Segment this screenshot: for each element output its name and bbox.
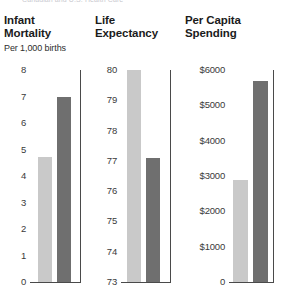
y-axis-tick-label: 3 — [0, 198, 26, 208]
chart-title-line2: Expectancy — [95, 27, 181, 40]
y-axis-tick-label: $1000 — [181, 242, 225, 252]
y-axis-tick-label: 1 — [0, 251, 26, 261]
y-axis-tick-label: 6 — [0, 118, 26, 128]
x-axis-baseline — [121, 282, 171, 283]
plot-inner: $6000$5000$4000$3000$2000$10000 — [181, 62, 281, 287]
y-axis-tick-label: 75 — [91, 216, 117, 226]
y-axis-tick-label: 4 — [0, 171, 26, 181]
bar-united-states — [57, 97, 71, 283]
chart-title-line2: Spending — [185, 27, 281, 40]
x-axis-baseline — [229, 282, 274, 283]
y-axis-tick-label: 78 — [91, 126, 117, 136]
y-axis-tick-label: $3000 — [181, 171, 225, 181]
chart-title-line2: Mortality — [4, 27, 91, 40]
chart-title-line1: Per Capita — [185, 14, 281, 27]
y-axis-tick-label: $6000 — [181, 65, 225, 75]
y-axis-tick-label: 79 — [91, 95, 117, 105]
y-axis-line — [170, 70, 171, 282]
y-axis-tick-label: 8 — [0, 65, 26, 75]
y-axis-line — [273, 70, 274, 282]
plot-area: 876543210 — [0, 62, 91, 287]
chart-title-line1: Infant — [4, 14, 91, 27]
bar-canada — [233, 180, 248, 282]
bar-canada — [38, 157, 52, 282]
y-axis-tick-label: $4000 — [181, 136, 225, 146]
bar-canada — [127, 70, 141, 282]
y-axis-line — [80, 70, 81, 282]
chart-title-line1: Life — [95, 14, 181, 27]
y-axis-tick-label: 0 — [181, 277, 225, 287]
chart-subtitle: Per 1,000 births — [4, 43, 91, 54]
plot-area: 8079787776757473 — [91, 62, 181, 287]
y-axis-tick-label: 74 — [91, 247, 117, 257]
plot-inner: 876543210 — [0, 62, 91, 287]
clipped-caption: Canadian and U.S. Health Care — [22, 0, 242, 4]
y-axis-tick-label: $5000 — [181, 100, 225, 110]
y-axis-tick-label: 0 — [0, 277, 26, 287]
y-axis-tick-label: 76 — [91, 186, 117, 196]
chart-panel-1: LifeExpectancy8079787776757473 — [91, 14, 181, 287]
y-axis-tick-label: $2000 — [181, 206, 225, 216]
y-axis-tick-label: 2 — [0, 224, 26, 234]
bar-united-states — [146, 158, 160, 282]
y-axis-tick-label: 80 — [91, 65, 117, 75]
chart-panel-group: InfantMortalityPer 1,000 births876543210… — [0, 14, 281, 287]
y-axis-tick-label: 77 — [91, 156, 117, 166]
bar-united-states — [253, 81, 268, 282]
chart-panel-2: Per CapitaSpending$6000$5000$4000$3000$2… — [181, 14, 281, 287]
y-axis-tick-label: 7 — [0, 92, 26, 102]
y-axis-tick-label: 5 — [0, 145, 26, 155]
x-axis-baseline — [30, 282, 81, 283]
chart-panel-0: InfantMortalityPer 1,000 births876543210 — [0, 14, 91, 287]
plot-area: $6000$5000$4000$3000$2000$10000 — [181, 62, 281, 287]
plot-inner: 8079787776757473 — [91, 62, 181, 287]
y-axis-tick-label: 73 — [91, 277, 117, 287]
